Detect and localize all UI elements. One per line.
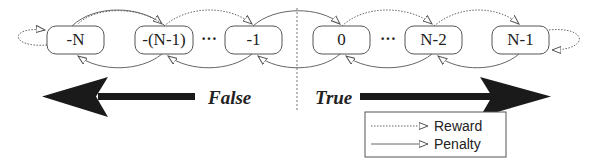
state-label: N-1 xyxy=(507,30,533,49)
edge-top-s1-s2 xyxy=(164,10,252,26)
state-label: N-2 xyxy=(420,30,446,49)
edge-bottom-s3-s2 xyxy=(258,54,340,68)
false-label: False xyxy=(207,87,252,108)
edge-bottom-s2-s1 xyxy=(168,54,252,68)
edge-top-s1-s0 xyxy=(78,11,164,25)
state-label: 0 xyxy=(337,30,346,49)
state-node-s2: -1 xyxy=(225,26,282,54)
state-label: -N xyxy=(67,30,85,49)
state-node-s0: -N xyxy=(47,26,104,54)
legend-penalty-label: Penalty xyxy=(434,136,481,152)
edge-top-s0-s1 xyxy=(72,10,162,26)
edge-bottom-s4-s3 xyxy=(346,54,432,68)
state-node-s1: -(N-1) xyxy=(135,26,193,54)
state-node-s4: N-2 xyxy=(405,26,462,54)
self-loop-right xyxy=(549,30,579,50)
ellipsis-left: ··· xyxy=(201,30,217,47)
state-node-s3: 0 xyxy=(313,26,370,54)
legend: Reward Penalty xyxy=(365,112,506,157)
self-loop-left xyxy=(18,30,47,46)
edge-top-s4-s5 xyxy=(434,10,519,26)
edge-bottom-s1-s0 xyxy=(78,54,162,68)
state-label: -(N-1) xyxy=(142,30,185,49)
edge-top-s3-s4 xyxy=(342,10,432,26)
state-label: -1 xyxy=(246,30,260,49)
ellipsis-right: ··· xyxy=(380,30,396,47)
edge-bottom-s5-s4 xyxy=(438,54,519,68)
legend-reward-label: Reward xyxy=(434,118,482,134)
true-label: True xyxy=(315,87,353,108)
state-node-s5: N-1 xyxy=(492,26,549,54)
true-direction-arrow xyxy=(360,77,551,117)
tsetlin-automaton-diagram: -N -(N-1) -1 0 N-2 N-1 ··· ··· False Tru… xyxy=(0,0,597,168)
false-direction-arrow xyxy=(42,77,195,117)
